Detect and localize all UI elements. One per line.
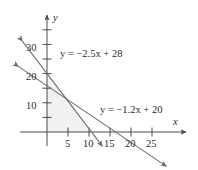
linear-inequalities-plot: [0, 0, 198, 170]
line-y-eq-neg1p2x-plus-20: [19, 67, 167, 167]
x-tick-label-25: 25: [146, 139, 157, 150]
y-tick-label-20: 20: [26, 72, 37, 83]
graph-figure: 30 20 10 5 10 15 20 25 y x y = −2.5x + 2…: [0, 0, 198, 170]
equation-label-gentle-line: y = −1.2x + 20: [100, 105, 162, 116]
x-axis-label: x: [173, 117, 178, 128]
y-tick-label-30: 30: [26, 43, 37, 54]
y-tick-label-10: 10: [26, 101, 37, 112]
x-tick-label-5: 5: [65, 139, 70, 150]
y-axis-label: y: [53, 13, 58, 24]
x-tick-label-15: 15: [104, 139, 115, 150]
x-tick-label-10: 10: [83, 139, 94, 150]
equation-label-steep-line: y = −2.5x + 28: [60, 49, 122, 60]
x-tick-label-20: 20: [125, 139, 136, 150]
